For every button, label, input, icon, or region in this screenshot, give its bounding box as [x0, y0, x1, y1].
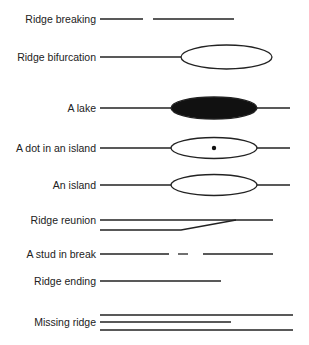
dot-in-island-figure [100, 138, 290, 159]
ridge-illustrations [0, 0, 309, 345]
missing-ridge-figure [100, 315, 293, 330]
island-figure [100, 175, 290, 196]
lake-figure [100, 97, 290, 119]
ridge-bifurcation-figure [100, 45, 272, 69]
ridge-reunion-figure [100, 220, 273, 230]
